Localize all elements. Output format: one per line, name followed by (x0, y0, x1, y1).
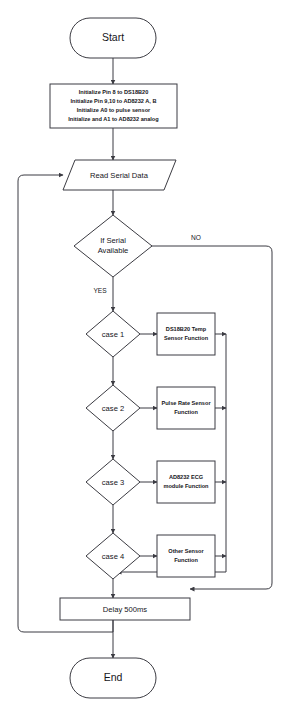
func3-line-1: AD8232 ECG (169, 474, 203, 480)
func4-line-1: Other Sensor (168, 548, 204, 554)
func2-line-2: Function (174, 409, 198, 415)
start-label: Start (102, 31, 124, 43)
node-case1[interactable]: case 1 (86, 311, 140, 357)
node-func2[interactable]: Pulse Rate Sensor Function (157, 387, 215, 429)
func1-line-2: Sensor Function (164, 335, 209, 341)
case4-label: case 4 (102, 552, 124, 561)
node-case3[interactable]: case 3 (86, 459, 140, 505)
case2-label: case 2 (102, 404, 124, 413)
node-case2[interactable]: case 2 (86, 385, 140, 431)
if-serial-line-1: If Serial (100, 236, 126, 245)
flowchart-canvas: NO YES Start Initialize Pin 8 to DS18B20… (0, 0, 288, 714)
node-end[interactable]: End (70, 658, 156, 698)
node-if-serial-available[interactable]: If Serial Available (74, 215, 152, 277)
func3-line-2: module Function (163, 483, 209, 489)
initialize-line-3: Initialize A0 to pulse sensor (77, 107, 151, 113)
func2-line-1: Pulse Rate Sensor (161, 400, 211, 406)
node-func1[interactable]: DS18B20 Temp Sensor Function (157, 313, 215, 355)
node-delay[interactable]: Delay 500ms (60, 598, 190, 620)
initialize-line-4: Initialize and A1 to AD8232 analog (68, 116, 159, 122)
delay-label: Delay 500ms (103, 605, 148, 614)
node-func3[interactable]: AD8232 ECG module Function (157, 461, 215, 503)
if-serial-line-2: Available (98, 246, 129, 255)
read-serial-label: Read Serial Data (90, 171, 149, 180)
initialize-line-2: Initialize Pin 9,10 to AD8232 A, B (70, 98, 156, 104)
func1-line-1: DS18B20 Temp (166, 326, 207, 332)
flowchart-diagram: NO YES Start Initialize Pin 8 to DS18B20… (0, 0, 288, 714)
case1-label: case 1 (102, 330, 124, 339)
node-read-serial-data[interactable]: Read Serial Data (63, 160, 176, 190)
node-start[interactable]: Start (70, 18, 156, 58)
func4-line-2: Function (174, 557, 198, 563)
end-label: End (104, 671, 123, 683)
node-func4[interactable]: Other Sensor Function (157, 535, 215, 577)
edge-label-no: NO (191, 234, 201, 241)
node-initialize[interactable]: Initialize Pin 8 to DS18B20 Initialize P… (50, 84, 177, 128)
case3-label: case 3 (102, 478, 124, 487)
edge-label-yes: YES (93, 287, 107, 294)
initialize-line-1: Initialize Pin 8 to DS18B20 (79, 89, 149, 95)
